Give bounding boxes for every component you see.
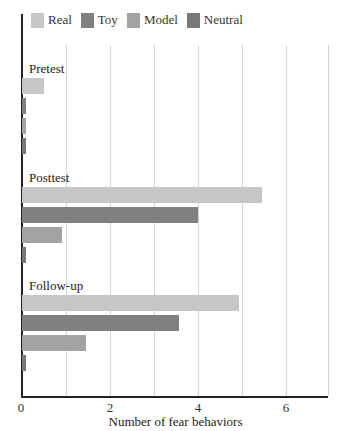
gridline: [198, 45, 199, 396]
legend-swatch-neutral: [187, 13, 200, 28]
legend-label: Toy: [98, 12, 118, 28]
bar-pretest-toy: [22, 98, 26, 114]
legend-swatch-model: [127, 13, 140, 28]
bar-posttest-toy: [22, 207, 198, 223]
gridline: [328, 45, 329, 396]
gridline: [242, 45, 243, 396]
legend-item-neutral: Neutral: [187, 12, 243, 28]
group-label-pretest: Pretest: [29, 61, 64, 77]
bar-posttest-neutral: [22, 247, 26, 263]
gridline: [286, 45, 287, 396]
legend-item-real: Real: [31, 12, 72, 28]
legend-label: Model: [144, 12, 178, 28]
bar-followup-neutral: [22, 355, 26, 371]
bar-followup-real: [22, 295, 239, 311]
bar-posttest-real: [22, 187, 262, 203]
bar-pretest-real: [22, 78, 44, 94]
chart: Real Toy Model Neutral Pretest Posttest …: [0, 0, 343, 431]
x-axis-label: Number of fear behaviors: [0, 414, 343, 430]
legend-item-toy: Toy: [81, 12, 118, 28]
bar-followup-model: [22, 335, 86, 351]
group-label-follow-up: Follow-up: [29, 278, 83, 294]
bar-pretest-model: [22, 118, 26, 134]
bar-pretest-neutral: [22, 138, 26, 154]
legend-label: Neutral: [204, 12, 243, 28]
bar-posttest-model: [22, 227, 62, 243]
legend-item-model: Model: [127, 12, 178, 28]
bar-followup-toy: [22, 315, 179, 331]
group-label-posttest: Posttest: [29, 170, 69, 186]
legend: Real Toy Model Neutral: [31, 10, 252, 30]
legend-label: Real: [48, 12, 72, 28]
legend-swatch-toy: [81, 13, 94, 28]
legend-swatch-real: [31, 13, 44, 28]
x-axis: [21, 396, 328, 398]
